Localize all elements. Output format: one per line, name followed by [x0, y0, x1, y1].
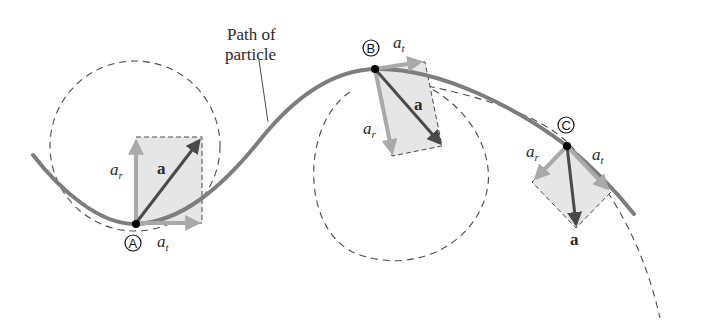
particle-point-a: [132, 220, 140, 228]
point-marker-b: B: [367, 41, 376, 56]
ar-label-c: ar: [526, 142, 540, 163]
a-label-b: a: [414, 95, 423, 114]
at-label-c: at: [592, 145, 605, 166]
particle-path-diagram: Path of particle A ar at a B ar at a C a…: [0, 0, 703, 336]
path-label-line1: Path of: [227, 25, 276, 44]
a-label-a: a: [157, 159, 166, 178]
ar-label-a: ar: [110, 160, 124, 181]
path-label-line2: particle: [225, 45, 276, 64]
particle-point-c: [563, 142, 571, 150]
at-label-b: at: [393, 33, 406, 54]
at-label-a: at: [157, 232, 170, 253]
particle-point-b: [371, 65, 379, 73]
label-leader-line: [259, 60, 268, 122]
particle-path: [33, 69, 634, 224]
point-marker-a: A: [129, 236, 138, 251]
point-marker-c: C: [562, 118, 571, 133]
a-label-c: a: [570, 230, 579, 249]
ar-label-b: ar: [363, 119, 377, 140]
